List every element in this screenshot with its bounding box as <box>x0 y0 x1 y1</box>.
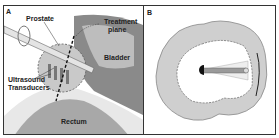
label-rectum: Rectum <box>61 118 87 125</box>
label-transducers: Transducers <box>8 84 50 91</box>
panel-letter-b: B <box>147 9 152 16</box>
panel-letter-a: A <box>6 8 11 15</box>
panel-b-axial-view: B <box>143 5 276 135</box>
axial-illustration <box>144 6 276 135</box>
label-prostate: Prostate <box>26 15 54 22</box>
panel-a-sagittal-view: A Prostate Treatment plane Bladder Ultra… <box>3 5 144 135</box>
label-plane: plane <box>108 26 126 33</box>
label-bladder: Bladder <box>104 54 130 61</box>
label-treatment: Treatment <box>104 18 137 25</box>
label-ultrasound: Ultrasound <box>8 76 45 83</box>
